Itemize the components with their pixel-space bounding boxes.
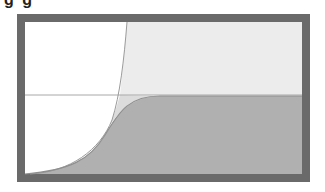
growth-diagram bbox=[0, 0, 325, 192]
region-upper-right bbox=[120, 22, 302, 95]
